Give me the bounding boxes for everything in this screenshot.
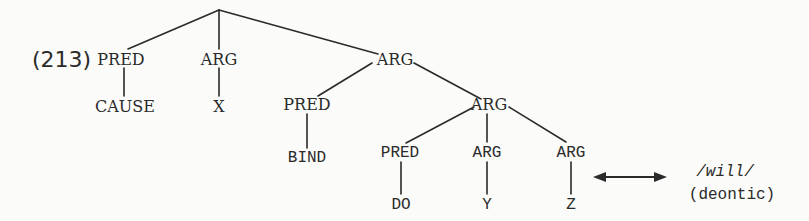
- node-arg-top: ARG: [377, 52, 413, 68]
- node-pred-cause: PRED: [97, 52, 144, 68]
- lexical-form: /will/: [696, 164, 754, 180]
- edge-argmid-arg-z: [509, 107, 566, 142]
- node-arg-z: ARG: [557, 145, 586, 161]
- edge-argmid-pred: [406, 107, 474, 143]
- node-arg-x: ARG: [201, 52, 237, 68]
- node-x: X: [213, 99, 224, 115]
- edge-root-pred: [128, 10, 219, 49]
- node-do: DO: [391, 197, 410, 213]
- node-pred-bind: PRED: [283, 97, 330, 113]
- node-bind: BIND: [288, 150, 326, 166]
- edge-argtop-argmid: [414, 63, 481, 99]
- node-z: Z: [566, 197, 576, 213]
- example-number: (213): [32, 48, 91, 72]
- node-arg-y: ARG: [473, 145, 502, 161]
- edge-root-arg-top: [219, 10, 378, 54]
- node-cause: CAUSE: [95, 99, 155, 115]
- node-arg-mid: ARG: [471, 97, 507, 113]
- lexical-gloss: (deontic): [689, 187, 775, 203]
- node-pred-do: PRED: [381, 145, 419, 161]
- tree-diagram: (213) PRED ARG ARG CAUSE X PRED ARG BIND…: [0, 0, 809, 221]
- bidirectional-arrow-icon: [593, 172, 667, 182]
- node-y: Y: [482, 197, 492, 213]
- edge-argtop-pred: [318, 63, 372, 96]
